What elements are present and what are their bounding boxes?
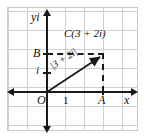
label-point-a: A bbox=[98, 94, 105, 106]
label-unit-imaginary: i bbox=[36, 65, 39, 76]
gridline-horizontal bbox=[8, 11, 137, 12]
gridline-vertical bbox=[8, 8, 9, 130]
figure-canvas: yi x C(3 + 2i) B i O 1 A |3 + 2i| bbox=[0, 0, 147, 140]
y-axis-label: yi bbox=[31, 11, 40, 23]
y-axis-down-arrow-icon bbox=[43, 126, 51, 133]
gridline-vertical bbox=[122, 8, 123, 130]
gridline-vertical bbox=[27, 8, 28, 130]
gridline-horizontal bbox=[8, 106, 137, 107]
x-axis-left-arrow-icon bbox=[7, 88, 14, 96]
label-point-c: C(3 + 2i) bbox=[64, 28, 106, 39]
x-axis-label: x bbox=[124, 94, 129, 106]
label-unit-real: 1 bbox=[63, 95, 69, 106]
y-axis-up-arrow-icon bbox=[43, 9, 51, 16]
x-axis-right-arrow-icon bbox=[131, 88, 138, 96]
label-origin: O bbox=[37, 94, 46, 106]
gridline-horizontal bbox=[8, 125, 137, 126]
label-point-b: B bbox=[33, 47, 40, 59]
